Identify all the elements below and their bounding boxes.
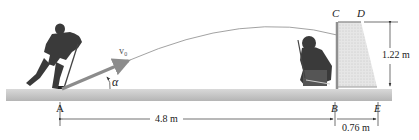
goal-net [337,22,377,89]
point-label-a: A [56,103,64,114]
point-label-b: B [331,103,338,114]
angle-arc [107,77,110,89]
projectile-diagram: A B C D E v₀ α 4.8 m 0.76 m 1.22 m [0,0,419,140]
point-label-c: C [332,8,339,19]
dimension-label-height: 1.22 m [382,50,410,60]
dimension-label-be: 0.76 m [342,123,370,133]
point-label-d: D [357,8,365,19]
velocity-label: v₀ [119,46,128,56]
ice-surface [6,89,392,101]
dimension-label-ab: 4.8 m [155,114,178,124]
point-label-e: E [374,103,381,114]
angle-label: α [112,76,118,88]
hockey-player-figure [26,24,82,90]
goalie-figure [298,36,332,86]
